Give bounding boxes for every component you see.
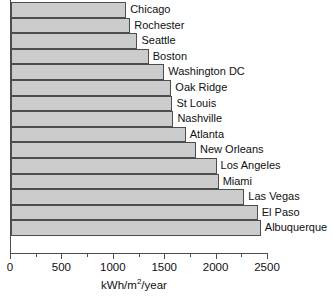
x-tick-major [10,253,11,259]
x-tick-label: 2000 [203,261,229,274]
bar-label: El Paso [262,206,300,219]
bar [11,111,173,127]
x-tick-label: 1500 [151,261,177,274]
bar [11,80,171,96]
x-tick-minor [139,253,140,257]
bar [11,49,149,65]
x-tick-major [216,253,217,259]
bar [11,64,164,80]
x-tick-major [164,253,165,259]
bar [11,2,126,18]
bar-chart: ChicagoRochesterSeattleBostonWashington … [0,0,333,299]
bar-label: Chicago [130,3,170,16]
bar-label: Los Angeles [221,159,281,172]
bar-label: Atlanta [190,128,224,141]
x-tick-label: 1000 [100,261,126,274]
bar [11,220,261,236]
bar [11,158,217,174]
x-tick-major [113,253,114,259]
x-tick-label: 2500 [254,261,280,274]
bar [11,18,130,34]
bar [11,33,137,49]
bar-label: Washington DC [168,65,245,78]
x-tick-minor [241,253,242,257]
x-axis-title-pre: kWh/m [101,279,137,291]
bar-label: Nashville [177,112,222,125]
x-tick-minor [190,253,191,257]
bar [11,127,186,143]
bar-label: Boston [153,50,187,63]
x-tick-major [267,253,268,259]
bar-label: Seattle [141,34,175,47]
x-tick-major [61,253,62,259]
bar-label: Oak Ridge [175,81,227,94]
bar [11,142,196,158]
bar [11,205,258,221]
bar-label: Rochester [134,19,184,32]
bar-label: St Louis [176,97,216,110]
bar [11,96,172,112]
bar-label: Albuquerque [265,221,327,234]
bar-label: New Orleans [200,143,264,156]
x-tick-label: 0 [7,261,13,274]
x-tick-label: 500 [52,261,71,274]
bar-label: Miami [223,175,252,188]
bar [11,189,244,205]
bar-label: Las Vegas [248,190,299,203]
plot-area: ChicagoRochesterSeattleBostonWashington … [0,0,333,255]
x-axis-title-post: /year [141,279,167,291]
bar [11,174,219,190]
x-axis-title: kWh/m2/year [0,278,268,292]
x-tick-minor [87,253,88,257]
x-tick-minor [36,253,37,257]
